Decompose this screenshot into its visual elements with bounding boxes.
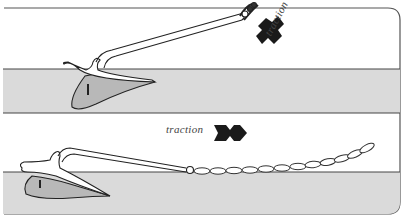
seabed-top-panel	[3, 69, 400, 113]
anchor-chain	[194, 141, 376, 174]
traction-arrow-icon	[214, 125, 247, 141]
traction-label-bottom: traction	[166, 123, 203, 135]
anchor-traction-figure: traction traction	[0, 0, 407, 219]
